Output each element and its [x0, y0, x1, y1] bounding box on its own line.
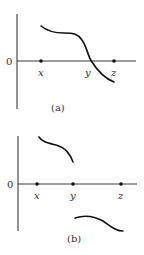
figure-a-curve	[41, 26, 114, 82]
figure-b-point-x	[35, 182, 39, 186]
figure-a-point-x	[39, 59, 43, 63]
figure-b-origin-label: 0	[7, 179, 13, 190]
figure-b-curve-upper	[39, 137, 73, 162]
figure-b-point-y	[71, 182, 75, 186]
figure-b-label-x: x	[34, 190, 40, 201]
figure-a-point-z	[112, 59, 116, 63]
figure-a-label-x: x	[38, 67, 44, 78]
figure-a: 0 x y z (a)	[6, 14, 136, 113]
figure-a-label-z: z	[110, 67, 117, 78]
figure-a-origin-label: 0	[6, 56, 12, 67]
figure-b-point-z	[119, 182, 123, 186]
figure-b-caption: (b)	[67, 233, 81, 244]
figure-b-curve-lower	[75, 216, 123, 231]
figure-b: 0 x y z (b)	[7, 136, 137, 244]
figure-b-label-z: z	[117, 190, 124, 201]
figure-b-label-y: y	[69, 190, 76, 201]
figure-a-caption: (a)	[51, 102, 65, 113]
diagram-canvas: 0 x y z (a) 0 x y z (b)	[0, 0, 144, 255]
figure-a-label-y: y	[84, 67, 91, 78]
